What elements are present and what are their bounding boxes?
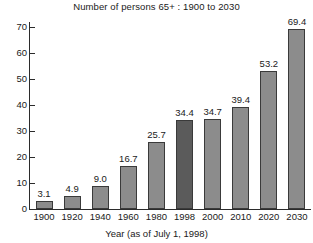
bar-chart: Number of persons 65+ : 1900 to 2030 010…: [0, 0, 313, 243]
bar-2010: [232, 107, 249, 209]
bar-1980: [148, 142, 165, 209]
y-tick-mark: [30, 105, 35, 106]
x-tick-label-2030: 2030: [281, 211, 313, 222]
y-axis-line: [29, 22, 30, 210]
y-tick-label-text: 0: [3, 204, 27, 214]
y-tick-mark: [30, 183, 35, 184]
bar-1960: [120, 166, 137, 209]
bar-2000: [204, 119, 221, 209]
y-tick-label: 50: [0, 74, 27, 84]
bar-value-label: 25.7: [140, 130, 172, 140]
bar-1920: [64, 196, 81, 209]
y-tick-label-text: 50: [3, 74, 27, 84]
chart-title: Number of persons 65+ : 1900 to 2030: [0, 1, 313, 12]
y-tick-mark: [30, 53, 35, 54]
bar-value-label: 53.2: [253, 59, 285, 69]
y-tick-label: 70: [0, 22, 27, 32]
y-tick-label: 40: [0, 100, 27, 110]
y-tick-label-text: 30: [3, 126, 27, 136]
bar-value-label: 4.9: [56, 184, 88, 194]
bar-value-label: 69.4: [281, 17, 313, 27]
bar-1998: [176, 120, 193, 209]
y-tick-label: 20: [0, 152, 27, 162]
bar-2030: [288, 29, 305, 209]
y-tick-mark: [30, 209, 35, 210]
y-tick-label: 60: [0, 48, 27, 58]
y-tick-mark: [30, 131, 35, 132]
y-tick-label-text: 20: [3, 152, 27, 162]
bar-2020: [260, 71, 277, 209]
bar-value-label: 34.7: [197, 107, 229, 117]
y-tick-mark: [30, 27, 35, 28]
y-tick-label-text: 10: [3, 178, 27, 188]
bar-1940: [92, 186, 109, 209]
y-tick-label-text: 60: [3, 48, 27, 58]
x-axis-line: [29, 209, 311, 210]
y-tick-mark: [30, 79, 35, 80]
bar-value-label: 9.0: [84, 174, 116, 184]
bar-value-label: 16.7: [112, 154, 144, 164]
y-tick-label-text: 40: [3, 100, 27, 110]
y-tick-label: 0: [0, 204, 27, 214]
y-tick-label: 30: [0, 126, 27, 136]
y-tick-label: 10: [0, 178, 27, 188]
x-axis-title: Year (as of July 1, 1998): [0, 228, 313, 239]
bar-1900: [36, 201, 53, 209]
bar-value-label: 39.4: [225, 95, 257, 105]
y-tick-mark: [30, 157, 35, 158]
y-tick-label-text: 70: [3, 22, 27, 32]
